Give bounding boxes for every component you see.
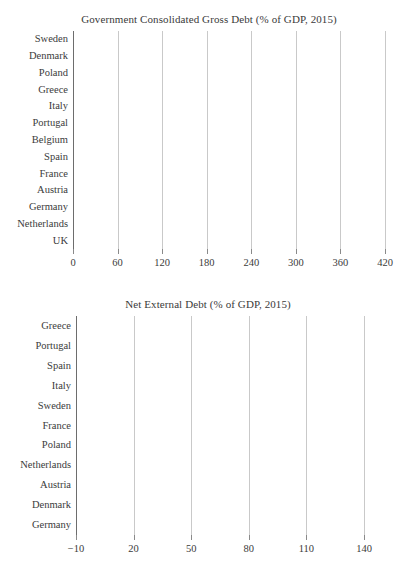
bar xyxy=(73,235,120,246)
x-tick-mark xyxy=(385,249,386,254)
bar-row: France xyxy=(76,419,364,432)
bar xyxy=(95,339,289,352)
bar-row: Spain xyxy=(76,359,364,372)
bar xyxy=(73,151,147,162)
x-tick-label: 180 xyxy=(199,257,215,268)
x-tick-mark xyxy=(118,249,119,254)
bar-row: Austria xyxy=(73,185,385,196)
bar-row: Greece xyxy=(76,319,364,332)
bar xyxy=(73,51,291,62)
x-axis-top: 060120180240300360420 xyxy=(73,249,385,271)
x-tick-label: 50 xyxy=(186,543,197,554)
bar-row: Denmark xyxy=(73,51,385,62)
bar xyxy=(73,84,204,95)
bar xyxy=(73,168,144,179)
bar-row: Poland xyxy=(76,439,364,452)
bar-row: Poland xyxy=(73,67,385,78)
x-tick-label: 360 xyxy=(333,257,349,268)
bar-row: France xyxy=(73,168,385,179)
gridline xyxy=(364,316,365,535)
y-axis-category-label: Spain xyxy=(0,152,68,163)
x-tick-label: 420 xyxy=(377,257,393,268)
x-tick-label: 80 xyxy=(244,543,255,554)
bar xyxy=(73,185,135,196)
y-axis-category-label: Netherlands xyxy=(0,460,71,471)
plot-area-top: SwedenDenmarkPolandGreeceItalyPortugalBe… xyxy=(73,31,385,249)
y-axis-category-label: Portugal xyxy=(0,118,68,129)
x-tick-label: 140 xyxy=(356,543,372,554)
x-tick-label: 0 xyxy=(70,257,75,268)
bar xyxy=(73,118,166,129)
plot-wrap-bottom: GreecePortugalSpainItalySwedenFrancePola… xyxy=(0,316,406,557)
bar-row: Portugal xyxy=(73,118,385,129)
bar xyxy=(73,67,236,78)
bar-row: Netherlands xyxy=(76,459,364,472)
y-axis-category-label: Poland xyxy=(0,68,68,79)
bar-row: Greece xyxy=(73,84,385,95)
x-tick-label: 120 xyxy=(154,257,170,268)
plot-area-bottom: GreecePortugalSpainItalySwedenFrancePola… xyxy=(76,316,364,535)
x-tick-label: 60 xyxy=(112,257,123,268)
y-axis-category-label: Italy xyxy=(0,101,68,112)
bar xyxy=(73,202,124,213)
plot-wrap-top: SwedenDenmarkPolandGreeceItalyPortugalBe… xyxy=(0,31,406,271)
bar-row: Italy xyxy=(76,379,364,392)
bar xyxy=(73,218,121,229)
x-tick-mark xyxy=(364,535,365,540)
bar xyxy=(73,101,168,112)
chart-title-top: Government Consolidated Gross Debt (% of… xyxy=(0,0,406,25)
x-tick-mark xyxy=(306,535,307,540)
y-axis-category-label: Germany xyxy=(0,202,68,213)
bar-row: Germany xyxy=(76,519,364,532)
bar-row: Belgium xyxy=(73,135,385,146)
bar-row: Netherlands xyxy=(73,218,385,229)
bar xyxy=(76,519,95,532)
y-axis-category-label: Denmark xyxy=(0,500,71,511)
x-tick-label: −10 xyxy=(68,543,84,554)
x-tick-mark xyxy=(207,249,208,254)
y-axis-category-label: Spain xyxy=(0,361,71,372)
y-axis-category-label: Sweden xyxy=(0,401,71,412)
x-tick-mark xyxy=(296,249,297,254)
x-tick-label: 110 xyxy=(299,543,314,554)
x-tick-mark xyxy=(73,249,74,254)
x-tick-label: 300 xyxy=(288,257,304,268)
y-axis-category-label: Poland xyxy=(0,440,71,451)
bar xyxy=(73,135,151,146)
y-axis-category-label: Greece xyxy=(0,85,68,96)
bar-row: Sweden xyxy=(73,34,385,45)
bar xyxy=(95,459,174,472)
y-axis-category-label: Denmark xyxy=(0,51,68,62)
bar xyxy=(95,499,102,512)
x-tick-mark xyxy=(162,249,163,254)
y-axis-category-label: Italy xyxy=(0,381,71,392)
gridline xyxy=(385,31,386,249)
x-tick-mark xyxy=(251,249,252,254)
chart-title-bottom: Net External Debt (% of GDP, 2015) xyxy=(0,288,406,310)
bar-row: Denmark xyxy=(76,499,364,512)
bar-row: Austria xyxy=(76,479,364,492)
x-tick-label: 240 xyxy=(243,257,259,268)
y-axis-category-label: Germany xyxy=(0,520,71,531)
y-axis-category-label: France xyxy=(0,421,71,432)
y-axis-category-label: Austria xyxy=(0,185,68,196)
bar-row: Portugal xyxy=(76,339,364,352)
bar xyxy=(73,34,378,45)
chart-net-external-debt: Net External Debt (% of GDP, 2015) Greec… xyxy=(0,288,406,572)
bar-row: Sweden xyxy=(76,399,364,412)
bar xyxy=(95,359,274,372)
x-tick-mark xyxy=(340,249,341,254)
bar xyxy=(95,419,168,432)
bar xyxy=(95,399,183,412)
bar xyxy=(95,479,133,492)
y-axis-category-label: Sweden xyxy=(0,34,68,45)
chart-government-gross-debt: Government Consolidated Gross Debt (% of… xyxy=(0,0,406,288)
x-axis-bottom: −10205080110140 xyxy=(76,535,364,557)
bar-row: Italy xyxy=(73,101,385,112)
bar-row: Spain xyxy=(73,151,385,162)
bar xyxy=(95,319,360,332)
x-tick-mark xyxy=(191,535,192,540)
y-axis-category-label: UK xyxy=(0,236,68,247)
x-tick-mark xyxy=(249,535,250,540)
bar-row: UK xyxy=(73,235,385,246)
